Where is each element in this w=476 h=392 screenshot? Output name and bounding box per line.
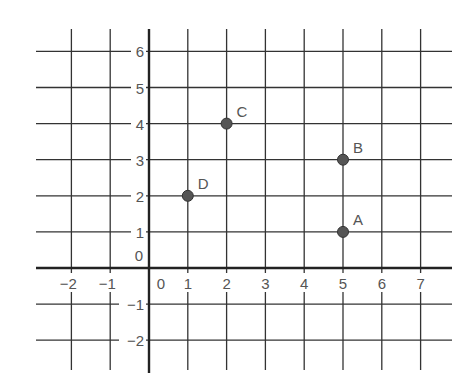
point-d — [182, 190, 193, 201]
point-a — [338, 226, 349, 237]
point-label-a: A — [353, 211, 363, 228]
point-label-c: C — [237, 103, 248, 120]
x-tick-label: 4 — [300, 275, 308, 292]
y-tick-label: 5 — [136, 80, 144, 97]
x-tick-label: 7 — [416, 275, 424, 292]
y-tick-label: 1 — [136, 224, 144, 241]
plotted-points: ABCD — [182, 103, 363, 238]
x-tick-label: 1 — [184, 275, 192, 292]
x-tick-label: −2 — [60, 275, 77, 292]
x-tick-label: 6 — [378, 275, 386, 292]
point-c — [221, 118, 232, 129]
x-tick-label-0: 0 — [157, 275, 165, 292]
y-tick-label: 2 — [136, 188, 144, 205]
y-tick-label: −1 — [127, 296, 144, 313]
y-tick-label-0: 0 — [135, 247, 143, 264]
axes — [36, 29, 452, 373]
coordinate-grid: −2−101234567−2−10123456 ABCD — [0, 0, 476, 392]
point-b — [338, 154, 349, 165]
y-tick-label: 6 — [136, 43, 144, 60]
grid-lines — [36, 29, 452, 370]
point-label-d: D — [198, 175, 209, 192]
x-tick-label: 2 — [222, 275, 230, 292]
y-tick-label: 4 — [136, 116, 144, 133]
x-tick-label: 3 — [261, 275, 269, 292]
x-tick-label: −1 — [99, 275, 116, 292]
y-tick-label: 3 — [136, 152, 144, 169]
point-label-b: B — [353, 139, 363, 156]
x-tick-label: 5 — [339, 275, 347, 292]
y-tick-label: −2 — [127, 332, 144, 349]
